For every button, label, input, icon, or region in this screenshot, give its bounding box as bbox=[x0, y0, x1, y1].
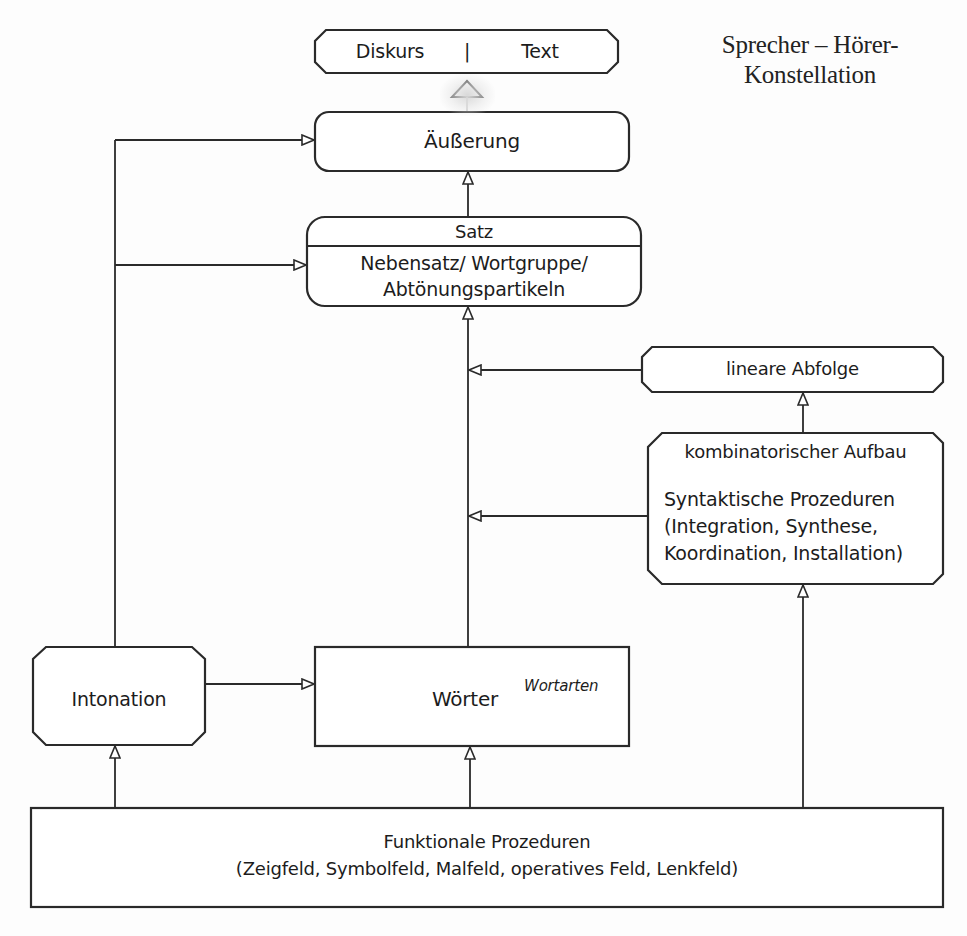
satz-line-2: Abtönungspartikeln bbox=[307, 277, 641, 301]
syntaktische-prozeduren-line-3: Koordination, Installation) bbox=[664, 541, 944, 565]
title-line-1: Sprecher – Hörer- bbox=[690, 30, 930, 60]
wortarten-annotation: Wortarten bbox=[524, 674, 614, 698]
aeusserung-label: Äußerung bbox=[315, 129, 629, 153]
diagram-canvas: Sprecher – Hörer- Konstellation Diskurs … bbox=[0, 0, 967, 936]
satz-header: Satz bbox=[307, 220, 641, 244]
funktionale-prozeduren-line-1: Funktionale Prozeduren bbox=[31, 830, 943, 854]
satz-line-1: Nebensatz/ Wortgruppe/ bbox=[307, 251, 641, 275]
lineare-abfolge-label: lineare Abfolge bbox=[642, 357, 943, 381]
text-label: Text bbox=[500, 39, 580, 63]
syntaktische-prozeduren-line-2: (Integration, Synthese, bbox=[664, 514, 944, 538]
title-line-2: Konstellation bbox=[690, 60, 930, 90]
intonation-label: Intonation bbox=[33, 687, 205, 711]
syntaktische-prozeduren-line-1: Syntaktische Prozeduren bbox=[664, 487, 944, 511]
funktionale-prozeduren-line-2: (Zeigfeld, Symbolfeld, Malfeld, operativ… bbox=[31, 857, 943, 881]
kombinatorischer-aufbau-header: kombinatorischer Aufbau bbox=[648, 440, 943, 464]
diskurs-text-separator: | bbox=[458, 39, 476, 63]
diskurs-label: Diskurs bbox=[335, 39, 445, 63]
scan-shadow bbox=[440, 74, 495, 116]
woerter-label: Wörter bbox=[400, 687, 530, 711]
